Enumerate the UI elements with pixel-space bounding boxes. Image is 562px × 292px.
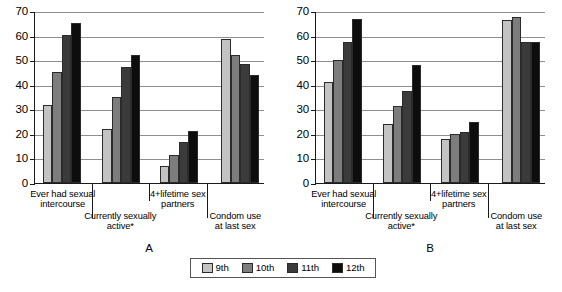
bar [469, 122, 479, 183]
bar [412, 65, 422, 183]
panel-b-letter: B [410, 242, 450, 254]
panel-a-letter: A [129, 242, 169, 254]
bar [502, 20, 512, 183]
bar [512, 17, 522, 183]
bar-group [431, 12, 489, 183]
bar [333, 60, 343, 183]
y-axis-tick-label: 60 [297, 31, 309, 43]
y-axis-tick-label: 30 [297, 105, 309, 117]
bar [71, 23, 81, 183]
plot-area-a: 010203040506070 [34, 12, 264, 184]
category-label-line: Ever had sexual [294, 189, 394, 199]
category-label: 4+lifetime sexpartners [128, 189, 228, 210]
bar [160, 166, 170, 183]
category-label-line: partners [128, 199, 228, 209]
bar [231, 55, 241, 183]
bar [521, 42, 531, 183]
panel-a: 010203040506070 A Ever had sexualinterco… [0, 0, 281, 260]
category-label-line: 4+lifetime sex [409, 189, 509, 199]
category-label-line: Currently sexually [70, 211, 170, 221]
legend-item-12th: 12th [332, 263, 364, 273]
category-label: Currently sexuallyactive* [70, 211, 170, 232]
bar [102, 129, 112, 183]
legend-label: 9th [216, 263, 229, 273]
bar [441, 139, 451, 183]
bar [460, 132, 470, 183]
legend-swatch-icon [287, 263, 298, 273]
category-label-line: at last sex [466, 221, 562, 231]
legend-label: 12th [346, 263, 364, 273]
y-axis-tick-label: 30 [16, 105, 28, 117]
bar-group [316, 12, 374, 183]
bar [52, 72, 62, 183]
legend-label: 10th [256, 263, 274, 273]
bar [450, 134, 460, 183]
bar-group [35, 12, 93, 183]
y-axis-tick-label: 40 [297, 80, 309, 92]
bar [352, 19, 362, 183]
category-label: Condom useat last sex [466, 211, 562, 232]
y-axis-tick-label: 50 [297, 55, 309, 67]
category-label: Currently sexuallyactive* [351, 211, 451, 232]
legend-swatch-icon [332, 263, 343, 273]
bar [43, 105, 53, 183]
bar-group [208, 12, 266, 183]
legend-swatch-icon [242, 263, 253, 273]
category-label: 4+lifetime sexpartners [409, 189, 509, 210]
bar-group [374, 12, 432, 183]
bar-groups [316, 12, 545, 183]
y-axis-tick-label: 40 [16, 80, 28, 92]
category-label-line: at last sex [185, 221, 285, 231]
bar [112, 97, 122, 183]
grouped-bar-chart-figure: 010203040506070 A Ever had sexualinterco… [0, 0, 562, 292]
category-label-line: intercourse [13, 199, 113, 209]
legend-item-10th: 10th [242, 263, 274, 273]
category-label-line: Currently sexually [351, 211, 451, 221]
category-label-line: partners [409, 199, 509, 209]
category-label-line: Condom use [466, 211, 562, 221]
plot-area-b: 010203040506070 [315, 12, 545, 184]
y-axis-tick-label: 10 [297, 154, 309, 166]
bar-groups [35, 12, 264, 183]
y-axis-tick-label: 10 [16, 154, 28, 166]
category-label: Ever had sexualintercourse [294, 189, 394, 210]
bar [121, 67, 131, 183]
bar [531, 42, 541, 183]
category-label-line: 4+lifetime sex [128, 189, 228, 199]
category-label: Condom useat last sex [185, 211, 285, 232]
legend-label: 11th [301, 263, 319, 273]
category-label-line: Condom use [185, 211, 285, 221]
bar [402, 91, 412, 183]
bar [383, 124, 393, 183]
bar [343, 42, 353, 183]
bar [131, 55, 141, 184]
legend-swatch-icon [202, 263, 213, 273]
category-label-line: active* [351, 221, 451, 231]
category-label: Ever had sexualintercourse [13, 189, 113, 210]
y-axis-tick-label: 50 [16, 55, 28, 67]
y-axis-tick-label: 70 [16, 6, 28, 18]
y-axis-tick [30, 184, 35, 185]
legend: 9th10th11th12th [190, 258, 376, 278]
bar-group [93, 12, 151, 183]
bar [221, 39, 231, 183]
category-label-line: intercourse [294, 199, 394, 209]
bar [240, 64, 250, 183]
bar-group [150, 12, 208, 183]
y-axis-tick [311, 184, 316, 185]
y-axis-tick-label: 70 [297, 6, 309, 18]
panel-b: 010203040506070 B Ever had sexualinterco… [281, 0, 562, 260]
bar [169, 155, 179, 183]
y-axis-tick-label: 20 [16, 129, 28, 141]
category-label-line: Ever had sexual [13, 189, 113, 199]
legend-item-9th: 9th [202, 263, 229, 273]
bar [62, 35, 72, 183]
category-label-line: active* [70, 221, 170, 231]
legend-item-11th: 11th [287, 263, 319, 273]
bar [393, 106, 403, 183]
bar [188, 131, 198, 183]
y-axis-tick-label: 60 [16, 31, 28, 43]
bar-group [489, 12, 547, 183]
y-axis-tick-label: 20 [297, 129, 309, 141]
bar [179, 142, 189, 183]
